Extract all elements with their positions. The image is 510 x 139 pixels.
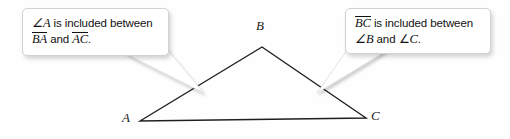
- segment-ac: AC: [72, 32, 88, 46]
- angle-var-c: C: [409, 32, 417, 46]
- segment-bc: BC: [355, 16, 371, 30]
- callout-left: ∠A is included between BA and AC.: [22, 8, 169, 56]
- angle-symbol-b: ∠: [355, 32, 366, 46]
- vertex-label-a: A: [122, 110, 130, 126]
- callout-left-period: .: [88, 33, 91, 45]
- callout-right-conjunction: and ∠: [373, 33, 409, 45]
- segment-ba: BA: [32, 32, 47, 46]
- callout-right-period: .: [418, 33, 421, 45]
- callout-right: BC is included between ∠B and ∠C.: [345, 8, 491, 54]
- vertex-label-c: C: [371, 108, 380, 124]
- callout-left-line-1: ∠A is included between: [32, 15, 159, 31]
- callout-right-text-1: is included between: [371, 17, 473, 29]
- callout-left-line-2: BA and AC.: [32, 31, 159, 47]
- callout-left-text-1: is included between: [50, 17, 152, 29]
- geometry-figure: A B C ∠A is included between BA and AC. …: [0, 0, 510, 139]
- angle-symbol-a: ∠: [32, 16, 43, 30]
- callout-right-line-2: ∠B and ∠C.: [355, 31, 481, 47]
- vertex-label-b: B: [256, 18, 264, 34]
- callout-right-line-1: BC is included between: [355, 15, 481, 31]
- callout-left-conjunction: and: [47, 33, 72, 45]
